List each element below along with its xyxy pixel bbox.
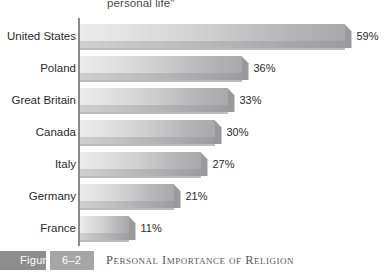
bar-cap	[228, 88, 235, 112]
value-label: 21%	[186, 190, 208, 202]
value-label: 59%	[357, 30, 379, 42]
category-label: Poland	[40, 62, 76, 74]
bar-underline	[80, 48, 345, 50]
bar-face	[80, 120, 215, 137]
bar-underline	[80, 80, 242, 82]
bar-shadow	[80, 41, 345, 48]
value-label: 27%	[213, 158, 235, 170]
bar-row: France11%	[0, 214, 392, 246]
value-label: 11%	[141, 222, 162, 234]
bar-face	[80, 56, 242, 73]
bar-row: United States59%	[0, 22, 392, 54]
bar-row: Canada30%	[0, 118, 392, 150]
bar-shadow	[80, 169, 201, 176]
bar-face	[80, 184, 174, 201]
bar-row: Germany21%	[0, 182, 392, 214]
bar-shadow	[80, 137, 215, 144]
bar	[80, 24, 345, 51]
category-label: Germany	[29, 190, 76, 202]
bar-underline	[80, 176, 201, 178]
bar-shadow	[80, 105, 228, 112]
bar-row: Italy27%	[0, 150, 392, 182]
category-label: Italy	[55, 158, 76, 170]
value-label: 33%	[240, 94, 262, 106]
bar-row: Poland36%	[0, 54, 392, 86]
bar-face	[80, 152, 201, 169]
bar-underline	[80, 208, 174, 210]
bar-cap	[215, 120, 222, 144]
bar-row: Great Britain33%	[0, 86, 392, 118]
bar-cap	[345, 24, 352, 48]
bar-face	[80, 216, 129, 233]
bar-cap	[129, 216, 136, 240]
bar	[80, 56, 242, 83]
value-label: 36%	[254, 62, 276, 74]
figure-caption: Figure 6–2 Personal Importance of Religi…	[0, 251, 392, 270]
bar-shadow	[80, 73, 242, 80]
figure-word-label: Figure	[20, 254, 53, 266]
bar-shadow	[80, 201, 174, 208]
bar-underline	[80, 112, 228, 114]
chart-heading: personal life"	[107, 0, 175, 9]
figure-title: Personal Importance of Religion	[106, 253, 294, 268]
bar-underline	[80, 240, 129, 242]
chart-plot-area: United States59%Poland36%Great Britain33…	[0, 18, 392, 248]
category-label: United States	[7, 30, 76, 42]
bar-cap	[174, 184, 181, 208]
bar	[80, 184, 174, 211]
category-label: France	[40, 222, 76, 234]
category-label: Canada	[36, 126, 76, 138]
bar-shadow	[80, 233, 129, 240]
bar	[80, 216, 129, 243]
category-label: Great Britain	[11, 94, 76, 106]
bar-cap	[242, 56, 249, 80]
bar-face	[80, 88, 228, 105]
bar	[80, 152, 201, 179]
bar	[80, 88, 228, 115]
bar	[80, 120, 215, 147]
value-label: 30%	[227, 126, 249, 138]
bar-face	[80, 24, 345, 41]
bar-cap	[201, 152, 208, 176]
figure-number-label: 6–2	[62, 254, 81, 266]
bar-underline	[80, 144, 215, 146]
